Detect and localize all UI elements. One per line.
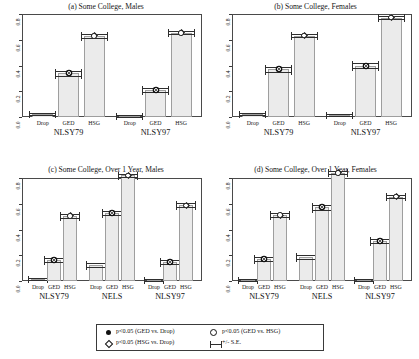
x-axis-label-c-0-2: HSG [56,284,84,290]
y-axis-label-b-0: 0.0 [225,116,231,134]
sig-marker-open-circle-c-2-2 [183,203,189,209]
y-axis-label-a-1: 0.2 [15,90,21,108]
y-axis-label-c-1: 0.2 [15,254,21,272]
x-axis-label-b-1-1: GED [352,120,380,126]
sig-marker-open-circle-d-0-2 [277,212,283,218]
group-label-d-NLSY97: NLSY97 [356,292,404,301]
error-bar-cap2-a-0-0 [29,115,56,116]
sig-marker-filled-circle-c-0-1 [52,258,56,262]
y-axis-label-b-1: 0.2 [225,90,231,108]
y-axis-label-b-4: 0.8 [225,13,231,31]
x-axis-label-a-1-0: Drop [116,120,144,126]
y-axis-label-a-2: 0.4 [15,65,21,83]
sig-marker-filled-circle-b-0-1 [277,67,281,71]
bar-d-NELS-Drop [299,257,312,281]
x-axis-label-c-1-2: HSG [114,284,142,290]
figure-root: (a) Some College, Males0.00.20.40.60.8Dr… [0,0,419,359]
x-axis-label-d-1-2: HSG [324,284,352,290]
bar-a-NLSY97-GED [145,90,166,117]
legend-error-bar-icon [210,344,222,345]
x-axis-label-a-0-2: HSG [80,120,108,126]
group-label-c-NLSY97: NLSY97 [146,292,194,301]
sig-marker-open-circle-c-1-2 [125,173,131,179]
x-axis-label-b-0-1: GED [265,120,293,126]
legend-label-1: p<0.05 (GED vs. HSG) [222,327,280,334]
x-axis-label-b-1-0: Drop [326,120,354,126]
error-bar-cap-a-0-0 [29,113,56,114]
bar-b-NLSY79-GED [268,69,289,117]
error-bar-cap-c-2-0 [144,279,163,280]
error-bar-cap-a-1-0 [116,115,143,116]
bar-b-NLSY97-GED [355,66,376,117]
error-bar-cap2-c-2-0 [144,281,163,282]
bar-c-NELS-GED [105,213,118,281]
bar-b-NLSY79-HSG [294,36,315,117]
y-axis-label-a-0: 0.0 [15,116,21,134]
group-label-c-NELS: NELS [88,292,136,301]
bar-d-NLSY97-HSG [389,197,402,281]
error-bar-cap2-c-0-1 [44,262,63,263]
error-bar-cap2-c-1-1 [102,215,121,216]
error-bar-cap2-a-1-0 [116,117,143,118]
y-axis-label-d-4: 0.8 [225,177,231,195]
bar-d-NELS-GED [315,207,328,281]
y-axis-label-d-1: 0.2 [225,254,231,272]
error-bar-cap2-a-1-1 [142,92,169,93]
error-bar-cap2-d-0-0 [238,281,257,282]
group-label-b-NLSY79: NLSY79 [240,128,317,137]
x-axis-label-a-0-1: GED [55,120,83,126]
error-bar-cap-d-0-0 [238,279,257,280]
y-axis-label-a-4: 0.8 [15,13,21,31]
group-label-b-NLSY97: NLSY97 [327,128,404,137]
y-axis-label-b-3: 0.6 [225,39,231,57]
legend-label-3: +/- S.E. [222,338,241,345]
panel-title-d: (d) Some College, Over 1 Year, Females [211,165,419,174]
panel-title-c: (c) Some College, Over 1 Year, Males [2,165,210,174]
sig-marker-filled-circle-b-1-1 [364,64,368,68]
error-bar-cap2-b-0-0 [239,115,266,116]
error-bar-cap2-d-1-0 [296,259,315,260]
panel-title-a: (a) Some College, Males [2,2,210,11]
error-bar-cap-b-1-0 [326,114,353,115]
y-axis-label-d-2: 0.4 [225,229,231,247]
group-label-d-NLSY79: NLSY79 [240,292,288,301]
x-axis-label-a-1-1: GED [142,120,170,126]
x-axis-label-c-2-2: HSG [172,284,200,290]
sig-marker-open-circle-c-0-2 [67,213,73,219]
bar-c-NELS-HSG [121,175,134,281]
error-bar-cap2-b-1-1 [352,68,379,69]
y-axis-label-c-0: 0.0 [15,280,21,298]
bar-a-NLSY97-HSG [171,33,192,117]
error-bar-cap2-d-2-1 [370,243,389,244]
error-bar-cap-d-1-0 [296,255,315,256]
y-axis-label-c-2: 0.4 [15,229,21,247]
x-axis-label-a-1-2: HSG [167,120,195,126]
sig-marker-open-circle-a-0-2 [91,33,97,39]
error-bar-cap2-d-2-0 [354,281,373,282]
sig-marker-open-circle-d-1-2 [335,170,341,176]
bar-d-NELS-HSG [331,173,344,281]
legend-label-2: p<0.05 (HSG vs. Drop) [116,338,174,345]
error-bar-cap2-a-0-1 [55,76,82,77]
sig-marker-filled-circle-a-1-1 [154,88,158,92]
bar-a-NLSY79-HSG [84,36,105,117]
error-bar-cap2-c-0-0 [28,280,47,281]
sig-marker-filled-circle-d-0-1 [262,257,266,261]
group-label-d-NELS: NELS [298,292,346,301]
bar-d-NLSY79-HSG [273,215,286,281]
y-axis-label-a-3: 0.6 [15,39,21,57]
bar-d-NLSY97-GED [373,241,386,281]
error-bar-cap2-b-1-0 [326,116,353,117]
legend-open-circle-icon [210,329,217,336]
error-bar-cap2-c-1-0 [86,267,105,268]
error-bar-cap2-c-2-1 [160,264,179,265]
legend-filled-circle-icon [106,330,111,335]
error-bar-cap2-b-0-1 [265,72,292,73]
bar-c-NLSY97-HSG [179,205,192,281]
y-axis-label-b-2: 0.4 [225,65,231,83]
error-bar-cap-c-0-0 [28,278,47,279]
y-axis-label-d-0: 0.0 [225,280,231,298]
bar-c-NLSY79-HSG [63,216,76,281]
error-bar-cap2-d-1-1 [312,210,331,211]
y-axis-label-c-4: 0.8 [15,177,21,195]
